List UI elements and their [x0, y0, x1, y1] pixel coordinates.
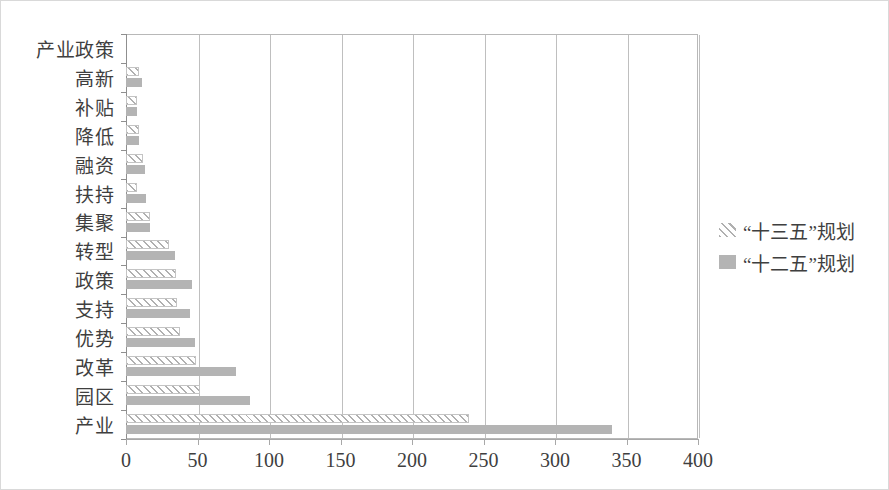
legend-label-shisanwu: “十三五”规划 — [743, 217, 855, 244]
y-axis-label: 转型 — [1, 236, 121, 265]
x-axis-label: 350 — [612, 449, 642, 472]
bar-shisanwu — [126, 212, 150, 221]
chart-legend: “十三五”规划 “十二五”规划 — [719, 214, 884, 278]
bar-shierwu — [126, 425, 612, 434]
bar-shierwu — [126, 165, 145, 174]
bar-row — [126, 92, 698, 121]
x-axis-tick — [198, 439, 199, 445]
x-axis-label: 300 — [540, 449, 570, 472]
bar-shisanwu — [126, 385, 200, 394]
x-axis-label: 150 — [326, 449, 356, 472]
bar-shisanwu — [126, 269, 176, 278]
bar-row — [126, 323, 698, 352]
bar-shisanwu — [126, 125, 139, 134]
y-axis-label: 产业政策 — [1, 34, 121, 63]
bar-shisanwu — [126, 96, 137, 105]
bar-row — [126, 410, 698, 439]
y-axis-label: 园区 — [1, 381, 121, 410]
x-axis-label: 250 — [469, 449, 499, 472]
bar-row — [126, 34, 698, 63]
bar-row — [126, 265, 698, 294]
bar-shierwu — [126, 136, 139, 145]
x-axis-tick — [555, 439, 556, 445]
y-axis-label: 支持 — [1, 294, 121, 323]
bar-shierwu — [126, 396, 250, 405]
bar-row — [126, 294, 698, 323]
y-axis-label: 政策 — [1, 265, 121, 294]
x-axis-label: 0 — [121, 449, 131, 472]
y-axis-label: 高新 — [1, 63, 121, 92]
legend-swatch-hatch-icon — [719, 223, 736, 237]
bar-row — [126, 179, 698, 208]
bar-shierwu — [126, 338, 195, 347]
legend-label-shierwu: “十二五”规划 — [743, 249, 855, 276]
y-axis-label: 降低 — [1, 121, 121, 150]
bar-shierwu — [126, 78, 142, 87]
y-axis-label: 优势 — [1, 323, 121, 352]
bar-shisanwu — [126, 414, 469, 423]
y-axis-label: 融资 — [1, 150, 121, 179]
legend-item-shisanwu: “十三五”规划 — [719, 214, 884, 246]
x-axis-label: 100 — [254, 449, 284, 472]
y-axis-label: 集聚 — [1, 208, 121, 237]
bar-shisanwu — [126, 298, 177, 307]
bar-rows — [126, 34, 698, 439]
x-axis-tick — [341, 439, 342, 445]
gridline-400 — [699, 35, 700, 438]
y-axis-label: 扶持 — [1, 179, 121, 208]
x-axis-label: 50 — [188, 449, 208, 472]
x-axis-tick — [126, 439, 127, 445]
y-axis-labels: 产业政策高新补贴降低融资扶持集聚转型政策支持优势改革园区产业 — [1, 34, 121, 439]
bar-row — [126, 352, 698, 381]
bar-row — [126, 63, 698, 92]
bar-shisanwu — [126, 240, 169, 249]
x-axis-label: 400 — [683, 449, 713, 472]
bar-shierwu — [126, 367, 236, 376]
legend-item-shierwu: “十二五”规划 — [719, 246, 884, 278]
x-axis-tick — [484, 439, 485, 445]
bar-shierwu — [126, 194, 146, 203]
x-axis-tick — [698, 439, 699, 445]
bar-shisanwu — [126, 183, 137, 192]
x-axis-tick — [627, 439, 628, 445]
bar-row — [126, 150, 698, 179]
bar-shisanwu — [126, 327, 180, 336]
bar-row — [126, 236, 698, 265]
chart-container: 产业政策高新补贴降低融资扶持集聚转型政策支持优势改革园区产业 050100150… — [0, 0, 889, 490]
bar-shisanwu — [126, 67, 139, 76]
bar-shisanwu — [126, 356, 196, 365]
legend-swatch-solid-icon — [719, 255, 736, 269]
bar-row — [126, 208, 698, 237]
bar-shierwu — [126, 251, 175, 260]
y-axis-label: 产业 — [1, 410, 121, 439]
y-axis-label: 补贴 — [1, 92, 121, 121]
x-axis-tick — [412, 439, 413, 445]
bar-shisanwu — [126, 154, 143, 163]
bar-shierwu — [126, 280, 192, 289]
bar-shierwu — [126, 309, 190, 318]
bar-shierwu — [126, 223, 150, 232]
bar-shierwu — [126, 107, 137, 116]
bar-row — [126, 121, 698, 150]
x-axis-tick — [269, 439, 270, 445]
bar-row — [126, 381, 698, 410]
y-axis-label: 改革 — [1, 352, 121, 381]
x-axis-label: 200 — [397, 449, 427, 472]
